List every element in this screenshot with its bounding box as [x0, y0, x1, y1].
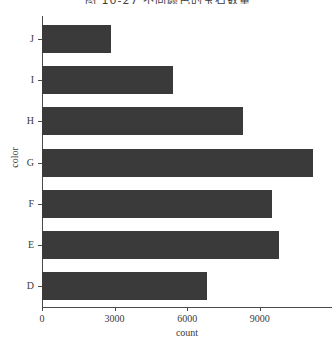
- bar-J: [42, 25, 111, 53]
- plot-panel: [42, 18, 330, 307]
- y-tick-label-H: H: [4, 115, 34, 126]
- y-tick-mark-H: [38, 121, 42, 122]
- bar-D: [42, 272, 207, 300]
- y-tick-mark-D: [38, 286, 42, 287]
- y-tick-mark-F: [38, 204, 42, 205]
- bar-F: [42, 190, 272, 218]
- y-axis-title: color: [9, 128, 20, 188]
- y-tick-mark-G: [38, 163, 42, 164]
- chart-title: 图 10-27 不同颜色的宝石数量: [0, 0, 336, 4]
- y-tick-mark-I: [38, 80, 42, 81]
- bar-E: [42, 231, 279, 259]
- y-tick-label-I: I: [4, 74, 34, 85]
- y-tick-label-F: F: [4, 198, 34, 209]
- y-tick-label-J: J: [4, 33, 34, 44]
- y-tick-label-D: D: [4, 280, 34, 291]
- y-tick-mark-J: [38, 39, 42, 40]
- x-tick-mark-9000: [260, 307, 261, 311]
- bar-I: [42, 66, 173, 94]
- x-tick-label-3000: 3000: [90, 313, 140, 324]
- y-tick-label-E: E: [4, 239, 34, 250]
- x-tick-mark-0: [42, 307, 43, 311]
- bar-G: [42, 149, 313, 177]
- x-axis-title: count: [42, 327, 332, 338]
- x-tick-label-6000: 6000: [162, 313, 212, 324]
- x-tick-mark-6000: [187, 307, 188, 311]
- bar-chart-figure: 图 10-27 不同颜色的宝石数量 JIHGFED 0300060009000 …: [0, 0, 336, 343]
- x-tick-label-9000: 9000: [235, 313, 285, 324]
- bar-H: [42, 107, 243, 135]
- x-tick-mark-3000: [115, 307, 116, 311]
- x-tick-label-0: 0: [17, 313, 67, 324]
- y-tick-mark-E: [38, 245, 42, 246]
